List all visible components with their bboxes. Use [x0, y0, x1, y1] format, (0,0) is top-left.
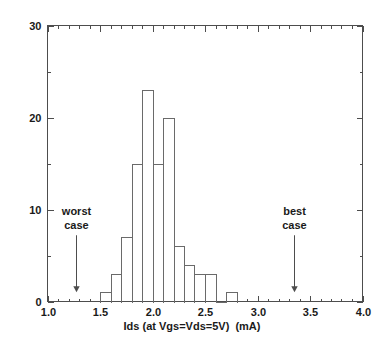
- y-tick-label: 10: [2, 205, 42, 216]
- annotation-arrow-head: [73, 286, 79, 292]
- annotation-label-worst-case: worstcase: [37, 205, 117, 233]
- annotation-label-line2: case: [255, 219, 335, 233]
- annotation-label-line2: case: [37, 219, 117, 233]
- x-tick-label: 1.0: [29, 307, 69, 318]
- y-tick-label: 0: [2, 297, 42, 308]
- annotation-label-line1: best: [255, 205, 335, 219]
- x-tick-label: 1.5: [81, 307, 121, 318]
- histogram-bars: [101, 91, 238, 303]
- histogram-outline: [101, 91, 238, 303]
- histogram-figure: 1.01.52.02.53.03.54.00102030 Ids (at Vgs…: [0, 0, 384, 347]
- annotation-arrows: [73, 235, 297, 292]
- x-axis-title: Ids (at Vgs=Vds=5V) (mA): [0, 320, 384, 332]
- x-tick-label: 2.5: [186, 307, 226, 318]
- y-tick-label: 30: [2, 21, 42, 32]
- x-tick-label: 2.0: [134, 307, 174, 318]
- annotation-label-best-case: bestcase: [255, 205, 335, 233]
- y-tick-label: 20: [2, 113, 42, 124]
- annotation-arrow-head: [291, 286, 297, 292]
- histogram-plot-svg: [0, 0, 384, 347]
- plot-frame: [48, 26, 363, 302]
- annotation-label-line1: worst: [37, 205, 117, 219]
- x-tick-label: 3.5: [291, 307, 331, 318]
- x-tick-label: 3.0: [239, 307, 279, 318]
- x-tick-label: 4.0: [344, 307, 384, 318]
- axis-ticks: [48, 26, 364, 303]
